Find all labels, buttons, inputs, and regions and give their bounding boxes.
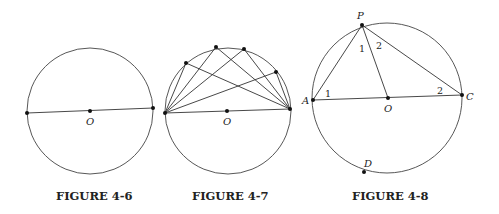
chord [165,63,186,113]
arc-point [184,61,188,65]
label-D: D [363,158,372,169]
figure-4-7: O FIGURE 4-7 [163,45,292,203]
chord [165,49,244,113]
caption-4-8: FIGURE 4-8 [352,189,429,203]
segment-PA [313,25,362,100]
angle-label-P2: 2 [376,40,382,51]
endpoint-right [151,106,155,110]
label-A: A [301,95,309,106]
caption-4-6: FIGURE 4-6 [56,189,133,203]
figure-4-6: O FIGURE 4-6 [25,48,155,203]
segment-PC [362,25,462,95]
caption-4-7: FIGURE 4-7 [192,189,269,203]
center-point [88,109,92,113]
label-O: O [384,103,392,114]
endpoint-right [288,107,292,111]
chord [216,47,290,109]
point-P [360,23,364,27]
center-point [225,109,229,113]
point-O [386,96,390,100]
arc-point [214,45,218,49]
figures-canvas: O FIGURE 4-6 O FIGURE 4-7 [0,0,499,214]
label-P: P [356,10,364,21]
arc-point [242,47,246,51]
chord [186,63,290,109]
label-C: C [466,91,474,102]
segment-PO [362,25,388,98]
endpoint-left [163,111,167,115]
arc-point [274,70,278,74]
angle-label-P1: 1 [359,43,365,54]
chord [244,49,290,109]
endpoint-left [25,111,29,115]
point-A [311,98,315,102]
point-C [460,93,464,97]
center-label: O [223,116,231,127]
figure-4-8: P A O C D 1 1 2 2 FIGURE 4-8 [301,10,474,203]
angle-label-C: 2 [437,85,443,96]
angle-label-A: 1 [325,88,331,99]
point-D [362,170,366,174]
center-label: O [86,116,94,127]
